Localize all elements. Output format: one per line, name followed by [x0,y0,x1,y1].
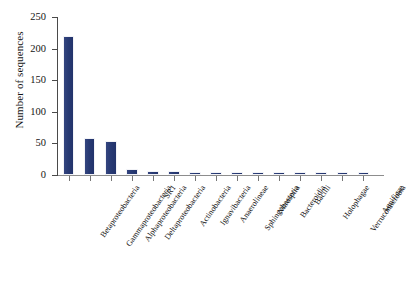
bar[interactable] [105,141,117,175]
bar-fill [295,173,305,174]
bar-fill [127,170,137,174]
bar[interactable] [168,171,180,175]
bar-fill [64,37,74,174]
bar[interactable] [273,172,285,175]
y-tick-label: 250 [6,12,46,22]
x-category-label: Aquificae [381,184,406,215]
x-category-label: Holophagae [342,184,371,221]
bar-fill [148,172,158,174]
bar-fill [316,173,326,174]
bar[interactable] [210,172,222,175]
bar[interactable] [147,171,159,175]
bar-fill [274,173,284,174]
bar[interactable] [84,138,96,175]
bar-fill [106,142,116,174]
bar-fill [232,173,242,174]
bar[interactable] [231,172,243,175]
x-tick-mark [258,176,259,181]
bar-fill [190,173,200,174]
y-tick-label: 0 [6,170,46,180]
bar[interactable] [63,36,75,175]
bar[interactable] [126,169,138,175]
bar[interactable] [358,172,370,175]
x-tick-mark [69,176,70,181]
x-tick-mark [363,176,364,181]
x-tick-mark [132,176,133,181]
bar-fill [211,173,221,174]
bar-fill [338,173,348,174]
x-axis-line [57,175,384,176]
plot-area [58,17,374,175]
x-tick-mark [279,176,280,181]
x-tick-mark [174,176,175,181]
x-tick-mark [342,176,343,181]
bar-fill [253,173,263,174]
x-tick-mark [300,176,301,181]
x-tick-mark [111,176,112,181]
bar[interactable] [294,172,306,175]
x-category-label: Nitrospira [276,184,302,216]
y-tick-label: 200 [6,44,46,54]
y-tick-label: 100 [6,107,46,117]
y-tick-label: 150 [6,75,46,85]
x-tick-mark [90,176,91,181]
bar-fill [359,173,369,174]
x-tick-mark [195,176,196,181]
y-tick-label: 50 [6,138,46,148]
bar[interactable] [337,172,349,175]
x-tick-mark [216,176,217,181]
bar-fill [85,139,95,174]
bar-fill [169,172,179,174]
bar[interactable] [315,172,327,175]
x-tick-mark [153,176,154,181]
bar[interactable] [189,172,201,175]
x-tick-mark [237,176,238,181]
y-tick-mark [52,175,58,176]
bar[interactable] [252,172,264,175]
x-tick-mark [321,176,322,181]
